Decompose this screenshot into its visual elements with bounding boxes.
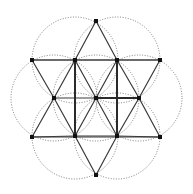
vertex-dot bbox=[137, 96, 141, 100]
vertex-dot bbox=[94, 173, 98, 177]
edge-line bbox=[139, 60, 160, 98]
edge-line bbox=[32, 98, 54, 137]
vertex-dot bbox=[30, 58, 34, 62]
edge-line bbox=[54, 60, 75, 98]
edge-line bbox=[75, 21, 96, 60]
vertex-dot bbox=[158, 58, 162, 62]
vertex-dot bbox=[30, 135, 34, 139]
edge-line bbox=[32, 60, 54, 98]
edge-line bbox=[75, 136, 96, 175]
star-of-david-circle-diagram bbox=[0, 0, 193, 194]
edge-line bbox=[117, 60, 139, 98]
edge-line bbox=[117, 98, 139, 136]
edge-line bbox=[96, 136, 117, 175]
vertex-dot bbox=[115, 134, 119, 138]
vertex-dot bbox=[73, 58, 77, 62]
vertex-dot bbox=[115, 58, 119, 62]
vertex-dot bbox=[52, 96, 56, 100]
edge-line bbox=[75, 98, 96, 136]
edge-line bbox=[96, 60, 117, 98]
edge-line bbox=[139, 98, 160, 137]
vertex-dot bbox=[158, 135, 162, 139]
vertex-dot bbox=[73, 134, 77, 138]
vertex-points bbox=[30, 19, 162, 177]
edge-line bbox=[96, 21, 117, 60]
vertex-dot bbox=[94, 19, 98, 23]
vertex-dot bbox=[94, 96, 98, 100]
